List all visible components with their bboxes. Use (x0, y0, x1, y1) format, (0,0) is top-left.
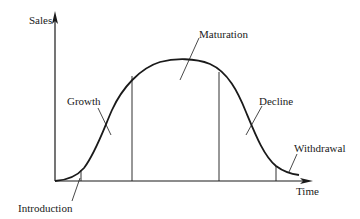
x-axis-label: Time (296, 186, 319, 197)
stage-label-decline: Decline (259, 96, 293, 107)
y-axis-label: Sales (29, 15, 52, 26)
product-life-cycle-diagram: Sales Time Introduction Growth Maturatio… (0, 0, 360, 219)
leader-growth (98, 108, 111, 135)
stage-label-withdrawal: Withdrawal (294, 143, 345, 154)
stage-label-growth: Growth (67, 96, 101, 107)
stage-label-introduction: Introduction (18, 203, 72, 214)
stage-label-maturation: Maturation (199, 29, 248, 40)
leader-withdrawal (289, 154, 297, 172)
sales-curve (55, 59, 299, 181)
